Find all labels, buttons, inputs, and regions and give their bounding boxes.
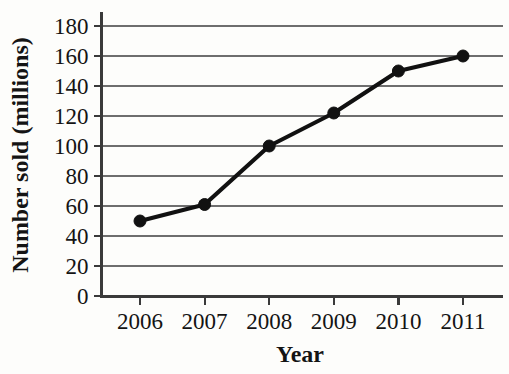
y-tick-label: 60 — [66, 194, 89, 219]
data-point-marker — [328, 107, 340, 119]
data-point-marker — [457, 50, 469, 62]
x-tick-label: 2009 — [311, 309, 357, 334]
y-tick-label: 20 — [66, 254, 89, 279]
x-tick-label: 2008 — [246, 309, 292, 334]
y-tick-label: 160 — [54, 44, 89, 69]
x-tick-label: 2011 — [440, 309, 485, 334]
data-point-marker — [263, 140, 275, 152]
x-tick-label: 2006 — [117, 309, 163, 334]
chart-canvas: 020406080100120140160180 200620072008200… — [0, 0, 509, 374]
y-tick-label: 100 — [54, 134, 89, 159]
y-tick-label: 40 — [66, 224, 89, 249]
data-point-marker — [392, 65, 404, 77]
y-axis-title: Number sold (millions) — [7, 37, 33, 273]
x-tick-label: 2007 — [182, 309, 228, 334]
y-tick-label: 140 — [54, 74, 89, 99]
x-axis-title: Year — [276, 341, 324, 367]
line-chart: 020406080100120140160180 200620072008200… — [0, 0, 509, 374]
y-tick-label: 0 — [77, 284, 89, 309]
x-tick-label: 2010 — [375, 309, 421, 334]
y-tick-label: 180 — [54, 14, 89, 39]
data-point-marker — [134, 215, 146, 227]
y-tick-label: 80 — [66, 164, 89, 189]
y-tick-label: 120 — [54, 104, 89, 129]
data-point-marker — [199, 199, 211, 211]
